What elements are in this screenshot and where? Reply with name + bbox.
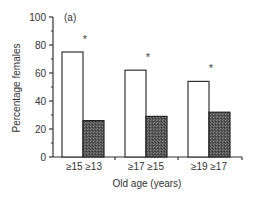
y-ticks: 020406080100	[29, 12, 53, 163]
group-label-1: ≥15 ≥13	[66, 161, 102, 172]
bar-white	[188, 81, 209, 157]
bar-dark	[146, 116, 167, 157]
bar-chart: 020406080100 *** (a) ≥15 ≥13 ≥17 ≥15 ≥19…	[0, 0, 257, 202]
bar-dark	[209, 112, 230, 157]
y-tick-label: 60	[35, 68, 47, 79]
bar-white	[125, 70, 146, 157]
significance-asterisk: *	[209, 62, 214, 74]
significance-asterisk: *	[83, 33, 88, 45]
bars: ***	[62, 33, 230, 157]
y-tick-label: 80	[35, 40, 47, 51]
y-tick-label: 100	[29, 12, 46, 23]
panel-label: (a)	[64, 12, 76, 23]
group-label-3: ≥19 ≥17	[191, 161, 227, 172]
y-axis-title: Percentage females	[11, 44, 22, 133]
y-tick-label: 0	[40, 152, 46, 163]
y-tick-label: 20	[35, 124, 47, 135]
x-axis-title: Old age (years)	[113, 178, 182, 189]
bar-dark	[83, 121, 104, 157]
significance-asterisk: *	[146, 51, 151, 63]
bar-white	[62, 52, 83, 157]
group-label-2: ≥17 ≥15	[128, 161, 164, 172]
y-tick-label: 40	[35, 96, 47, 107]
